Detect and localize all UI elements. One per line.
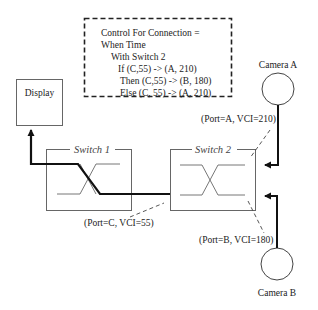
control-line-2: With Switch 2 [111, 52, 166, 62]
control-line-3: If (C,55) -> (A, 210) [118, 64, 197, 75]
port-c-leader [130, 203, 164, 217]
connection-path [31, 130, 170, 194]
control-line-0: Control For Connection = [101, 28, 200, 38]
port-c-label: (Port=C, VCI=55) [84, 218, 154, 229]
camera-a-node: Camera A [259, 60, 297, 105]
display-label: Display [25, 88, 55, 98]
switch-1-node: Switch 1 [47, 143, 132, 211]
camera-b-label: Camera B [258, 288, 296, 298]
switch-1-label: Switch 1 [74, 144, 110, 155]
control-box: Control For Connection = When Time With … [85, 19, 232, 100]
control-line-5: Else (C, 55) -> (A, 210) [120, 88, 211, 99]
port-a-label: (Port=A, VCI=210) [201, 114, 276, 125]
switch-2-node: Switch 2 [171, 143, 256, 211]
display-node: Display [17, 80, 63, 126]
switch-2-label: Switch 2 [195, 144, 232, 155]
camera-b-node: Camera B [258, 248, 296, 298]
camera-a-label: Camera A [259, 60, 297, 70]
port-a-leader [250, 130, 270, 158]
control-line-4: Then (C,55) -> (B, 180) [120, 76, 211, 87]
control-line-1: When Time [101, 40, 146, 50]
network-diagram: Control For Connection = When Time With … [0, 0, 318, 310]
port-b-label: (Port=B, VCI=180) [199, 235, 273, 246]
